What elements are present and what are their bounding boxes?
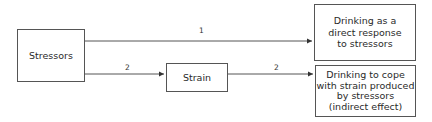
- node-strain-label: Strain: [183, 72, 211, 84]
- node-stressors-label: Stressors: [29, 50, 73, 62]
- node-direct-drinking: Drinking as a direct response to stresso…: [314, 4, 416, 61]
- edge-label-1: 1: [199, 26, 204, 35]
- pathway-diagram: 1 2 2 Stressors Strain Drinking as a dir…: [0, 0, 432, 122]
- node-indirect-drinking: Drinking to cope with strain produced by…: [315, 65, 416, 117]
- edge-label-2a: 2: [125, 63, 130, 72]
- node-strain: Strain: [166, 63, 228, 92]
- edge-label-2b: 2: [274, 63, 279, 72]
- node-stressors: Stressors: [17, 29, 85, 82]
- node-indirect-label: Drinking to cope with strain produced by…: [317, 70, 415, 112]
- node-direct-label: Drinking as a direct response to stresso…: [328, 15, 401, 50]
